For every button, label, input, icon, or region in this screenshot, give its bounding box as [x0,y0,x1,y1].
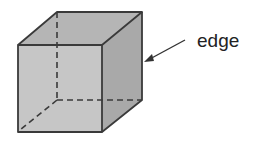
cube-svg: edge [0,0,253,142]
cube-diagram: edge [0,0,253,142]
edge-label: edge [197,30,239,51]
cube-front-face [18,45,102,132]
arrow-icon [144,40,185,62]
